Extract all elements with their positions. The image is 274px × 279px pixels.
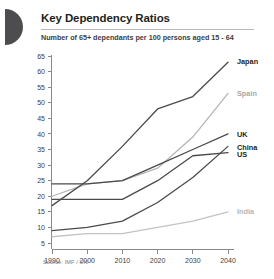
series-line-us xyxy=(52,153,228,200)
series-line-china xyxy=(52,146,228,230)
title-divider xyxy=(41,29,254,30)
y-tick-label: 25 xyxy=(37,177,45,184)
y-tick-label: 40 xyxy=(37,131,45,138)
chart-subtitle: Number of 65+ dependants per 100 persons… xyxy=(41,33,234,42)
y-tick-label: 60 xyxy=(37,68,45,75)
line-chart: 5101520253035404550556065199020002010202… xyxy=(0,50,274,279)
series-label-us: US xyxy=(237,150,247,159)
source-note: Source: IMF / UN xyxy=(43,259,88,265)
y-tick-label: 35 xyxy=(37,146,45,153)
y-tick-label: 15 xyxy=(37,208,45,215)
series-label-japan: Japan xyxy=(237,57,258,66)
half-disc-logo-icon xyxy=(5,9,23,45)
card-header: Key Dependency Ratios Number of 65+ depe… xyxy=(0,0,274,50)
y-tick-label: 45 xyxy=(37,115,45,122)
y-tick-label: 30 xyxy=(37,162,45,169)
y-tick-label: 50 xyxy=(37,99,45,106)
x-tick-label: 2030 xyxy=(185,257,201,264)
series-label-uk: UK xyxy=(237,130,248,139)
y-tick-label: 65 xyxy=(37,53,45,60)
y-tick-label: 55 xyxy=(37,84,45,91)
chart-card: Key Dependency Ratios Number of 65+ depe… xyxy=(0,0,274,279)
x-tick-label: 2010 xyxy=(115,257,131,264)
chart-plot-area: 5101520253035404550556065199020002010202… xyxy=(0,50,274,279)
y-tick-label: 20 xyxy=(37,193,45,200)
page-title: Key Dependency Ratios xyxy=(41,12,170,24)
series-line-spain xyxy=(52,93,228,196)
series-label-india: India xyxy=(237,207,255,216)
series-label-spain: Spain xyxy=(237,89,257,98)
x-tick-label: 2020 xyxy=(150,257,166,264)
y-tick-label: 5 xyxy=(41,240,45,247)
series-line-india xyxy=(52,212,228,237)
series-line-uk xyxy=(52,134,228,184)
x-tick-label: 2040 xyxy=(220,257,236,264)
y-tick-label: 10 xyxy=(37,224,45,231)
